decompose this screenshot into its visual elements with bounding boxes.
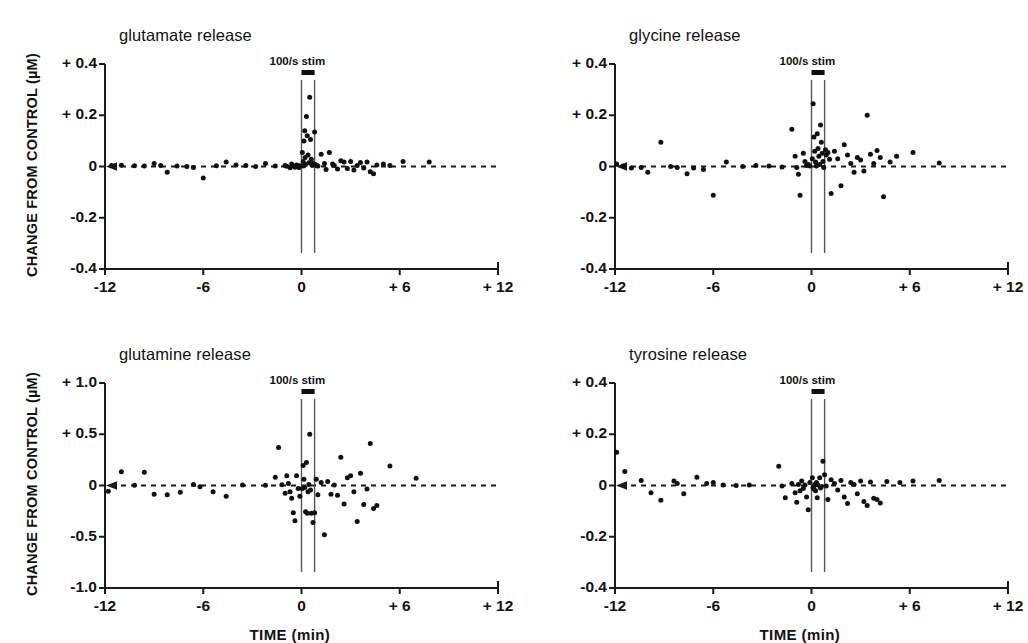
data-point: [165, 170, 170, 175]
data-point: [319, 480, 324, 485]
data-point: [401, 159, 406, 164]
x-tick-label: -6: [173, 597, 233, 615]
data-point: [789, 481, 794, 486]
data-point: [191, 165, 196, 170]
data-point: [288, 489, 293, 494]
data-point: [819, 484, 824, 489]
data-point: [292, 518, 297, 523]
data-point: [776, 464, 781, 469]
stim-annotation-label: 100/s stim: [780, 55, 836, 67]
data-point: [845, 152, 850, 157]
y-tick-label: + 1.0: [35, 373, 97, 391]
data-point: [622, 469, 627, 474]
data-point: [243, 163, 248, 168]
data-point: [852, 482, 857, 487]
y-tick-label: -0.2: [545, 208, 607, 226]
data-point: [165, 492, 170, 497]
data-point: [614, 450, 619, 455]
data-point: [305, 133, 310, 138]
data-point: [858, 158, 863, 163]
data-point: [324, 167, 329, 172]
data-point: [799, 478, 804, 483]
x-tick-label: 0: [272, 278, 332, 296]
data-point: [685, 171, 690, 176]
data-point: [937, 160, 942, 165]
data-point: [804, 495, 809, 500]
data-point: [152, 161, 157, 166]
x-tick-label: -6: [683, 597, 743, 615]
data-point: [821, 165, 826, 170]
data-point: [818, 122, 823, 127]
data-point: [815, 495, 820, 500]
data-point: [865, 113, 870, 118]
data-point: [361, 502, 366, 507]
data-point: [289, 496, 294, 501]
data-point: [201, 176, 206, 181]
data-point: [783, 495, 788, 500]
y-tick-label: + 0.4: [545, 54, 607, 72]
data-point: [704, 481, 709, 486]
y-tick-label: + 0.2: [545, 105, 607, 123]
data-point: [273, 475, 278, 480]
y-tick-label: + 0.2: [35, 105, 97, 123]
data-point: [301, 138, 306, 143]
data-point: [263, 161, 268, 166]
data-point: [191, 482, 196, 487]
data-point: [283, 491, 288, 496]
data-point: [197, 484, 202, 489]
data-point: [829, 191, 834, 196]
data-point: [335, 167, 340, 172]
data-point: [276, 445, 281, 450]
data-point: [811, 101, 816, 106]
data-point: [374, 162, 379, 167]
data-point: [300, 150, 305, 155]
x-tick-label: -12: [75, 278, 135, 296]
data-point: [711, 193, 716, 198]
data-point: [897, 480, 902, 485]
data-point: [793, 154, 798, 159]
data-point: [306, 482, 311, 487]
zero-line-arrow-icon: [616, 481, 627, 489]
data-point: [801, 151, 806, 156]
data-point: [740, 164, 745, 169]
x-tick-label: -6: [683, 278, 743, 296]
data-point: [798, 193, 803, 198]
data-point: [868, 479, 873, 484]
data-point: [691, 166, 696, 171]
data-point: [286, 481, 291, 486]
data-point: [234, 162, 239, 167]
x-tick-label: -12: [75, 597, 135, 615]
x-tick-label: 0: [272, 597, 332, 615]
data-point: [381, 161, 386, 166]
data-point: [824, 484, 829, 489]
data-point: [365, 487, 370, 492]
stim-annotation-label: 100/s stim: [270, 374, 326, 386]
y-tick-label: -1.0: [35, 578, 97, 596]
data-point: [911, 478, 916, 483]
data-point: [681, 491, 686, 496]
data-point: [711, 480, 716, 485]
data-point: [842, 495, 847, 500]
data-point: [387, 163, 392, 168]
data-point: [312, 129, 317, 134]
data-point: [387, 464, 392, 469]
data-point: [701, 167, 706, 172]
x-tick-label: -6: [173, 278, 233, 296]
data-point: [848, 161, 853, 166]
data-point: [794, 165, 799, 170]
data-point: [297, 494, 302, 499]
data-point: [106, 489, 111, 494]
data-point: [881, 194, 886, 199]
data-point: [852, 170, 857, 175]
data-point: [668, 164, 673, 169]
y-tick-label: 0: [35, 476, 97, 494]
data-point: [724, 159, 729, 164]
data-point: [675, 165, 680, 170]
data-point: [355, 519, 360, 524]
data-point: [315, 163, 320, 168]
data-point: [301, 477, 306, 482]
data-point: [807, 163, 812, 168]
data-point: [322, 161, 327, 166]
data-point: [345, 166, 350, 171]
